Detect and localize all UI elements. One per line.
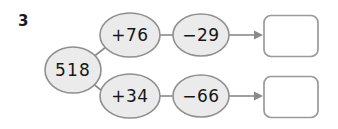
worksheet-question-panel: 3 +76 −29 518 bbox=[0, 0, 338, 129]
upper-branch: +76 −29 bbox=[100, 13, 318, 57]
oval-start-value-label: 518 bbox=[55, 60, 91, 80]
answer-box-upper[interactable] bbox=[264, 16, 318, 57]
arrow-right-icon-lower bbox=[254, 92, 263, 101]
start-value-group: 518 bbox=[45, 47, 101, 93]
oval-upper-operation-2-label: −29 bbox=[182, 25, 219, 45]
answer-box-lower[interactable] bbox=[264, 77, 318, 118]
oval-lower-operation-2-label: −66 bbox=[182, 86, 219, 106]
oval-upper-operation-1-label: +76 bbox=[111, 25, 148, 45]
arrow-right-icon-upper bbox=[254, 31, 263, 40]
lower-branch: +34 −66 bbox=[100, 74, 318, 118]
function-machine-diagram: +76 −29 518 +34 −66 bbox=[0, 0, 338, 129]
oval-lower-operation-1-label: +34 bbox=[111, 86, 148, 106]
